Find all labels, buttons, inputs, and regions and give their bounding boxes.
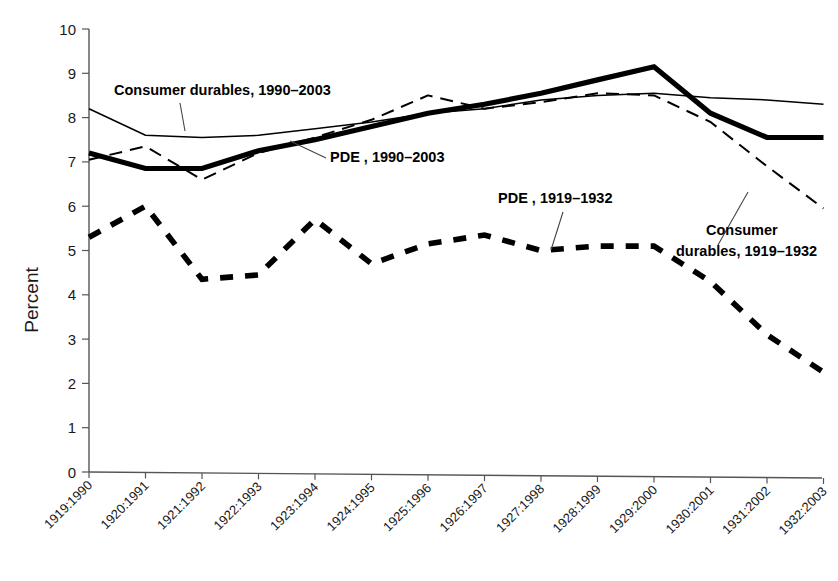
y-tick-label: 9	[68, 65, 76, 82]
x-tick-label: 1927:1998	[493, 481, 547, 535]
x-axis-ticks: 1919:19901920:19911921:19921922:19931923…	[41, 472, 830, 538]
x-tick-label: 1929:2000	[606, 482, 660, 536]
x-tick-label: 1920:1991	[98, 478, 152, 532]
data-series-group	[89, 67, 824, 373]
annot-pde-1919-label: PDE , 1919–1932	[498, 190, 612, 206]
x-tick-label: 1928:1999	[550, 482, 604, 536]
y-axis-title: Percent	[21, 267, 42, 333]
y-tick-label: 0	[68, 464, 76, 481]
x-tick-label: 1931:2002	[719, 483, 773, 537]
y-tick-label: 6	[68, 198, 76, 215]
x-tick-label: 1919:1990	[41, 478, 95, 532]
x-tick-label: 1922:1993	[211, 479, 265, 533]
y-axis-ticks: 012345678910	[59, 21, 89, 481]
y-tick-label: 4	[68, 286, 76, 303]
annot-pde-1990-label: PDE , 1990–2003	[330, 149, 444, 165]
y-tick-label: 7	[68, 153, 76, 170]
y-tick-label: 1	[68, 419, 76, 436]
annot-consumer-durables-1919-label: Consumer	[706, 222, 778, 238]
x-axis-line	[89, 472, 822, 478]
x-tick-label: 1932:2003	[776, 484, 830, 538]
annot-consumer-durables-1919-label-line2: durables, 1919–1932	[676, 243, 817, 259]
chart-plot-area: Percent 012345678910 1919:19901920:19911…	[0, 0, 838, 581]
chart-figure: Percent 012345678910 1919:19901920:19911…	[0, 0, 838, 581]
x-tick-label: 1923:1994	[267, 479, 321, 533]
annotation-leader-line	[180, 103, 185, 131]
x-tick-label: 1924:1995	[324, 480, 378, 534]
y-tick-label: 3	[68, 331, 76, 348]
y-tick-label: 8	[68, 109, 76, 126]
x-tick-label: 1925:1996	[380, 480, 434, 534]
x-tick-label: 1921:1992	[154, 478, 208, 532]
y-tick-label: 10	[59, 21, 76, 38]
x-tick-label: 1926:1997	[437, 481, 491, 535]
annot-consumer-durables-1990-label: Consumer durables, 1990–2003	[114, 82, 331, 98]
y-tick-label: 5	[68, 242, 76, 259]
annotation-leader-line	[551, 212, 563, 250]
x-tick-label: 1930:2001	[663, 483, 717, 537]
y-tick-label: 2	[68, 375, 76, 392]
